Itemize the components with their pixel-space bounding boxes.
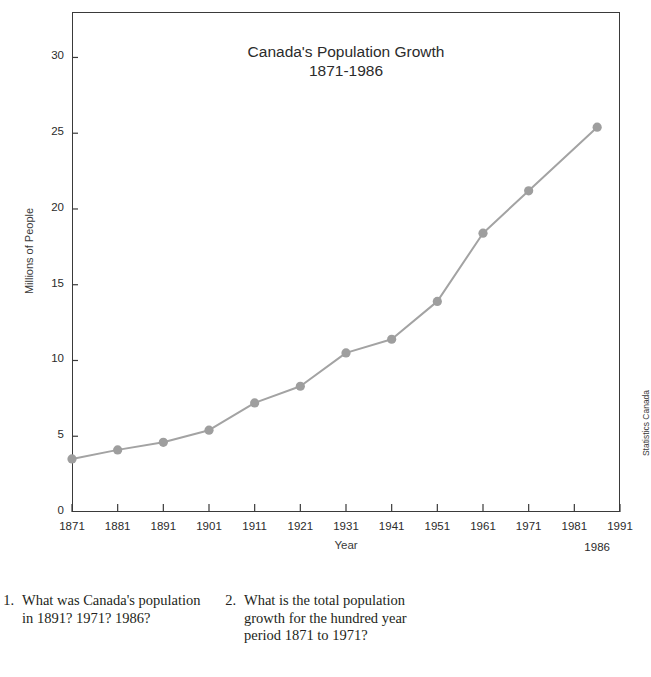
chart-plot [0,0,647,580]
data-line [72,127,597,459]
question-number: 1. [0,592,22,627]
question-item: 2. What is the total population growth f… [222,592,437,645]
data-point [67,454,76,463]
x-axis-ticks [72,504,620,512]
data-point [478,229,487,238]
data-point [524,186,533,195]
chart-figure: Canada's Population Growth 1871-1986 Mil… [0,0,647,580]
data-point [296,382,305,391]
data-point [433,297,442,306]
y-axis-ticks [72,57,78,436]
question-text: What was Canada's population in 1891? 19… [22,592,210,627]
data-point [387,335,396,344]
question-number: 2. [222,592,244,645]
data-point [204,426,213,435]
data-point [113,445,122,454]
data-point [341,348,350,357]
question-item: 1. What was Canada's population in 1891?… [0,592,210,627]
data-point [159,438,168,447]
data-markers [67,123,601,464]
question-text: What is the total population growth for … [244,592,437,645]
data-point [593,123,602,132]
questions-block: 1. What was Canada's population in 1891?… [0,592,647,677]
data-point [250,398,259,407]
